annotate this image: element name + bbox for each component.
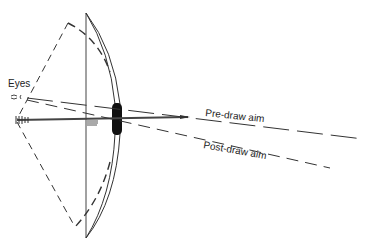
- drawn-string-upper: [17, 23, 68, 119]
- post-draw-aim-line: [27, 100, 330, 168]
- arrow-fletching-drawn-icon: [87, 121, 98, 125]
- bow-limb-upper-outer: [86, 13, 120, 104]
- eyes-label: Eyes: [8, 78, 30, 89]
- bow-aim-diagram: Eyes Pre-draw aim Post-draw aim: [0, 0, 376, 246]
- eye-icon: [11, 95, 21, 99]
- pre-draw-aim-label: Pre-draw aim: [205, 107, 265, 124]
- bow-limb-lower-inner: [86, 134, 115, 238]
- drawn-string-lower: [17, 122, 75, 227]
- bow-limb-upper-inner: [86, 13, 115, 104]
- bow-limb-lower-outer: [86, 134, 120, 238]
- post-draw-aim-label: Post-draw aim: [203, 139, 268, 161]
- drawn-bow-upper-limb: [68, 23, 110, 72]
